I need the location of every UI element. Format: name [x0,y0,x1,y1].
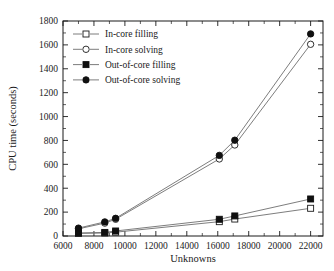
y-tick-label: 1000 [39,112,58,122]
legend-marker [83,46,89,52]
data-point [102,229,108,235]
plot-area: 0200400600800100012001400160018006000800… [0,0,334,271]
y-tick-label: 1400 [39,64,58,74]
data-point [308,205,314,211]
x-tick-label: 16000 [206,241,230,251]
data-point [75,225,81,231]
legend-label: Out-of-core solving [105,75,180,85]
y-axis-title: CPU time (seconds) [7,86,19,171]
legend-label: In-core solving [105,45,163,55]
y-tick-label: 0 [53,231,58,241]
x-tick-label: 8000 [84,241,103,251]
data-point [232,137,238,143]
data-point [307,31,313,37]
legend-marker [83,62,89,68]
y-tick-label: 200 [44,207,59,217]
data-point [307,41,313,47]
data-point [216,216,222,222]
x-tick-label: 22000 [299,241,323,251]
x-tick-label: 6000 [54,241,73,251]
y-tick-label: 1600 [39,40,58,50]
x-tick-label: 18000 [237,241,261,251]
legend-marker [83,77,89,83]
data-point [112,215,118,221]
legend-label: In-core filling [105,29,158,39]
y-tick-label: 600 [44,160,59,170]
data-point [102,219,108,225]
data-point [232,213,238,219]
legend-label: Out-of-core filling [105,60,176,70]
legend-marker [83,31,89,37]
data-point [308,196,314,202]
data-point [216,152,222,158]
y-tick-label: 400 [44,184,59,194]
x-tick-label: 10000 [113,241,137,251]
x-axis-title: Unknowns [170,253,216,264]
x-tick-label: 12000 [144,241,168,251]
x-tick-label: 20000 [268,241,292,251]
y-tick-label: 1200 [39,88,58,98]
y-tick-label: 800 [44,136,59,146]
y-tick-label: 1800 [39,16,58,26]
cpu-time-line-chart: 0200400600800100012001400160018006000800… [0,0,334,271]
series-line [78,44,310,229]
data-point [113,228,119,234]
plot-frame [63,21,323,236]
x-tick-label: 14000 [175,241,199,251]
